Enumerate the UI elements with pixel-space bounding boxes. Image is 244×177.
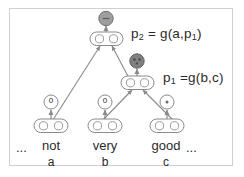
sentiment-node-p1[interactable]: [130, 54, 144, 68]
sentiment-value-a: 0: [49, 97, 53, 105]
formula-p2-rhs: = g(a,p: [144, 26, 192, 41]
variable-label-a: a: [48, 156, 55, 168]
vector-box-a[interactable]: [34, 119, 68, 133]
word-c: good: [152, 139, 181, 152]
vector-box-b[interactable]: [88, 119, 122, 133]
sentiment-value-b: 0: [103, 97, 107, 105]
variable-label-c: c: [163, 156, 169, 168]
sentiment-node-p2[interactable]: [99, 11, 113, 25]
figure-canvas: 0 0 p2 = g(a,p1) p1 =g(b,c) ... not very…: [0, 0, 244, 177]
sentiment-node-c[interactable]: [160, 95, 174, 109]
edge-p1-to-p2: [112, 46, 130, 80]
vector-box-p1[interactable]: [121, 76, 154, 90]
word-b: very: [93, 139, 118, 152]
formula-p2-lhs: p: [131, 26, 139, 41]
edge-a-to-p2: [51, 46, 100, 123]
vector-box-p2[interactable]: [90, 32, 123, 46]
formula-p2: p2 = g(a,p1): [131, 27, 202, 42]
formula-p1-rhs: =g(b,c): [176, 70, 224, 85]
diagram-vector-layer: [0, 0, 244, 177]
formula-p1: p1 =g(b,c): [163, 71, 224, 86]
formula-p1-lhs: p: [163, 70, 171, 85]
variable-label-b: b: [102, 156, 109, 168]
leading-ellipsis: ...: [16, 141, 27, 154]
trailing-ellipsis: ...: [186, 141, 197, 154]
formula-p2-rhs-tail: ): [197, 26, 202, 41]
vector-box-c[interactable]: [150, 119, 184, 133]
word-a: not: [42, 139, 60, 152]
